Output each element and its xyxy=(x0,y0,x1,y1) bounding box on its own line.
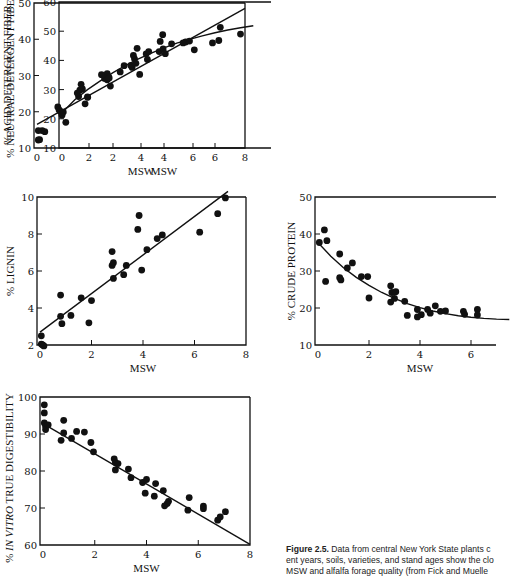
data-point xyxy=(151,493,158,500)
data-point xyxy=(401,298,408,305)
y-tick-label: 90 xyxy=(24,429,37,440)
x-axis-label: MSW xyxy=(133,562,160,574)
y-axis-label: % CRUDE PROTEIN xyxy=(285,222,297,320)
data-point xyxy=(442,308,449,315)
data-point xyxy=(45,421,52,428)
chart-in-vitro-true-digestibility: 0246860708090100MSW% IN VITRO TRUE DIGES… xyxy=(0,0,260,573)
data-point xyxy=(68,435,75,442)
x-tick-label: 4 xyxy=(417,349,423,360)
data-point xyxy=(338,277,345,284)
data-point xyxy=(391,295,398,302)
data-point xyxy=(165,498,172,505)
y-tick-label: 60 xyxy=(24,540,37,551)
data-point xyxy=(322,278,329,285)
data-point xyxy=(418,311,425,318)
y-tick-label: 10 xyxy=(299,340,312,351)
y-tick-label: 40 xyxy=(299,229,312,240)
data-point xyxy=(344,265,351,272)
data-point xyxy=(58,437,65,444)
data-point xyxy=(349,260,356,267)
x-tick-label: 6 xyxy=(468,349,474,360)
data-point xyxy=(81,429,88,436)
data-point xyxy=(321,227,328,234)
data-point xyxy=(88,439,95,446)
x-tick-label: 6 xyxy=(195,549,201,560)
x-tick-label: 0 xyxy=(40,549,46,560)
figure-caption: Figure 2.5. Data from central New York S… xyxy=(286,544,514,577)
data-point xyxy=(392,288,399,295)
data-point xyxy=(41,401,48,408)
data-point xyxy=(41,410,48,417)
data-point xyxy=(112,467,119,474)
data-point xyxy=(324,237,331,244)
plot-frame xyxy=(315,197,496,345)
x-tick-label: 2 xyxy=(92,549,98,560)
x-tick-label: 2 xyxy=(366,349,372,360)
data-point xyxy=(404,312,411,319)
data-point xyxy=(358,273,365,280)
x-axis-label: MSW xyxy=(407,362,434,374)
data-point xyxy=(60,417,67,424)
data-point xyxy=(186,494,193,501)
y-tick-label: 100 xyxy=(18,392,37,403)
data-point xyxy=(222,508,229,515)
data-point xyxy=(152,480,159,487)
y-tick-label: 80 xyxy=(24,466,37,477)
data-point xyxy=(90,448,97,455)
y-tick-label: 30 xyxy=(299,266,312,277)
y-tick-label: 20 xyxy=(299,303,312,314)
data-point xyxy=(217,514,224,521)
data-point xyxy=(125,466,132,473)
data-point xyxy=(432,302,439,309)
data-point xyxy=(336,251,343,258)
data-point xyxy=(143,476,150,483)
x-tick-label: 0 xyxy=(315,349,321,360)
data-point xyxy=(128,474,135,481)
caption-line-3: MSW and alfalfa forage quality (from Fic… xyxy=(286,566,514,577)
data-point xyxy=(60,430,67,437)
data-point xyxy=(474,312,481,319)
data-point xyxy=(73,428,80,435)
fit-line xyxy=(43,424,250,545)
data-point xyxy=(427,310,434,317)
data-point xyxy=(387,282,394,289)
data-point xyxy=(366,295,373,302)
y-tick-label: 50 xyxy=(299,192,312,203)
caption-line-2: ent years, soils, varieties, and stand a… xyxy=(286,555,514,566)
y-axis-label: % IN VITRO TRUE DIGESTIBILITY xyxy=(3,393,15,563)
data-point xyxy=(364,273,371,280)
data-point xyxy=(316,239,323,246)
caption-line-1: Data from central New York State plants … xyxy=(329,544,490,554)
data-point xyxy=(160,487,167,494)
data-point xyxy=(200,505,207,512)
caption-label: Figure 2.5. xyxy=(286,544,329,554)
x-tick-label: 4 xyxy=(143,549,149,560)
x-tick-label: 8 xyxy=(247,549,253,560)
y-tick-label: 70 xyxy=(24,503,37,514)
data-point xyxy=(142,490,149,497)
data-point xyxy=(185,507,192,514)
data-point xyxy=(461,311,468,318)
data-point xyxy=(115,460,122,467)
